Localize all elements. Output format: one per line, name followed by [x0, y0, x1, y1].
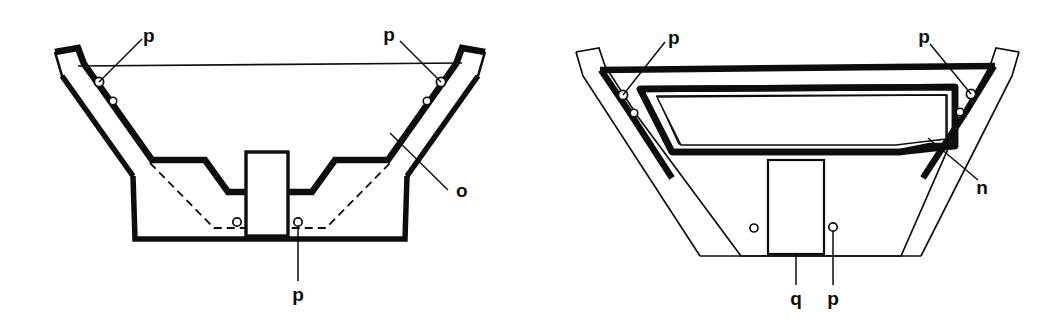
- right-label-p-bottom: p: [827, 288, 839, 309]
- right-hole-upper-right-2: [956, 108, 964, 116]
- right-hole-bottom-left: [750, 224, 758, 232]
- right-hole-bottom-right: [829, 223, 837, 231]
- left-hole-bottom-left: [233, 218, 241, 226]
- technical-drawing-canvas: p p o p: [0, 0, 1062, 320]
- right-inner-frame-hollow: [657, 95, 946, 145]
- left-label-p-top-right: p: [383, 24, 395, 45]
- right-top-rail: [600, 66, 995, 70]
- right-label-p-top-left: p: [668, 27, 680, 48]
- left-center-pedestal-block: [246, 152, 288, 236]
- left-label-p-top-left: p: [143, 25, 155, 46]
- right-label-q-bottom: q: [790, 288, 802, 309]
- right-hole-upper-left-2: [630, 109, 638, 117]
- left-hole-bottom-right: [294, 218, 302, 226]
- left-hole-upper-left-2: [109, 97, 117, 105]
- left-hole-upper-right-2: [423, 97, 431, 105]
- right-label-n: n: [976, 177, 988, 198]
- right-center-block: [768, 160, 824, 254]
- left-label-p-bottom: p: [292, 284, 304, 305]
- right-label-p-top-right: p: [918, 26, 930, 47]
- left-label-o: o: [456, 180, 468, 201]
- figure-root: p p o p: [0, 0, 1062, 320]
